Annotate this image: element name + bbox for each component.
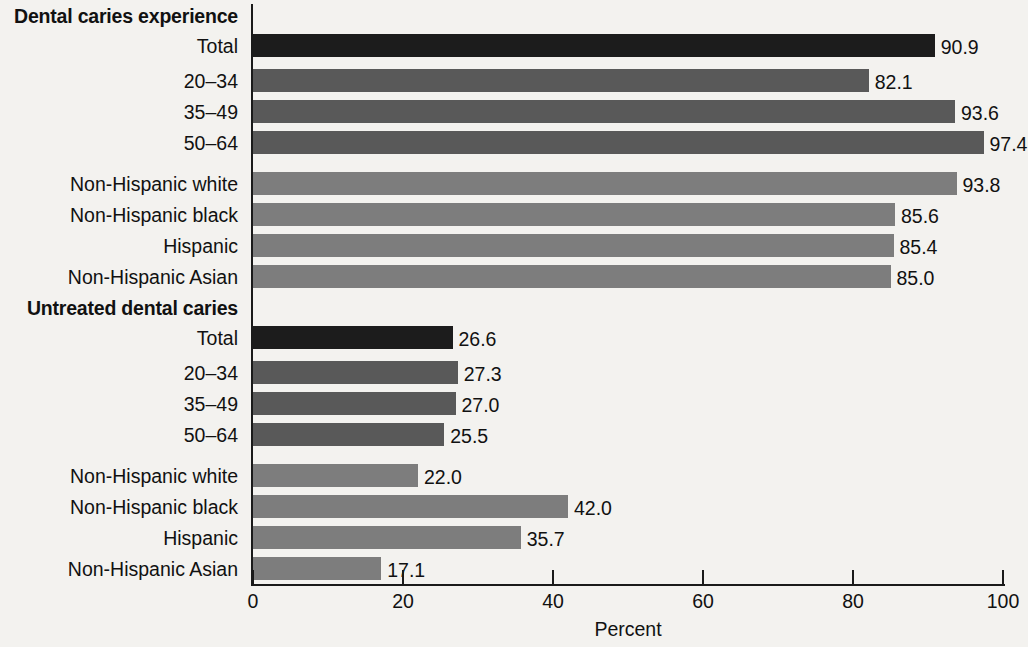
bar-value-label: 25.5: [450, 427, 488, 447]
x-axis-tick: [1002, 570, 1004, 584]
x-axis-tick: [852, 570, 854, 584]
category-label: 35–49: [184, 103, 238, 123]
bar-value-label: 85.4: [900, 238, 938, 258]
bar: [253, 234, 894, 257]
x-axis-title: Percent: [253, 620, 1003, 640]
bar: [253, 423, 444, 446]
x-axis-tick: [702, 570, 704, 584]
category-label: Non-Hispanic white: [70, 175, 238, 195]
category-label: Non-Hispanic black: [70, 206, 238, 226]
category-label: Non-Hispanic Asian: [68, 560, 238, 580]
bar-value-label: 26.6: [459, 330, 497, 350]
bar-value-label: 42.0: [574, 499, 612, 519]
category-label: Non-Hispanic black: [70, 498, 238, 518]
group-header-label: Dental caries experience: [14, 7, 238, 27]
bar: [253, 34, 935, 57]
bar-value-label: 17.1: [387, 561, 425, 581]
bar-value-label: 35.7: [527, 530, 565, 550]
bar-value-label: 82.1: [875, 73, 913, 93]
bar-value-label: 27.0: [462, 396, 500, 416]
category-label: 35–49: [184, 395, 238, 415]
x-axis-tick: [552, 570, 554, 584]
bar: [253, 69, 869, 92]
bar: [253, 557, 381, 580]
bar-value-label: 97.4: [990, 135, 1028, 155]
bar: [253, 392, 456, 415]
x-axis-tick: [252, 570, 254, 584]
category-label: 50–64: [184, 134, 238, 154]
bar-value-label: 27.3: [464, 365, 502, 385]
bar: [253, 464, 418, 487]
category-label: Total: [197, 37, 238, 57]
bar: [253, 495, 568, 518]
bar-value-label: 93.8: [963, 176, 1001, 196]
bar: [253, 265, 891, 288]
category-label: Hispanic: [163, 237, 238, 257]
category-label: Total: [197, 329, 238, 349]
bar: [253, 526, 521, 549]
category-label: Hispanic: [163, 529, 238, 549]
x-axis-tick-label: 60: [692, 592, 714, 612]
bar: [253, 203, 895, 226]
bar-value-label: 22.0: [424, 468, 462, 488]
category-label: Non-Hispanic white: [70, 467, 238, 487]
category-label: Non-Hispanic Asian: [68, 268, 238, 288]
bar-value-label: 90.9: [941, 38, 979, 58]
category-label: 50–64: [184, 426, 238, 446]
plot-area: 90.982.193.697.493.885.685.485.026.627.3…: [253, 0, 1003, 584]
bar-value-label: 85.6: [901, 207, 939, 227]
bar: [253, 172, 957, 195]
x-axis-tick-label: 20: [392, 592, 414, 612]
x-axis-tick-label: 40: [542, 592, 564, 612]
x-axis-tick: [402, 570, 404, 584]
x-axis-line: [251, 584, 1005, 586]
category-label: 20–34: [184, 72, 238, 92]
bar: [253, 100, 955, 123]
x-axis-tick-label: 80: [842, 592, 864, 612]
x-axis-tick-label: 100: [987, 592, 1020, 612]
category-label-column: Dental caries experienceTotal20–3435–495…: [0, 0, 246, 584]
bar: [253, 361, 458, 384]
group-header-label: Untreated dental caries: [27, 299, 238, 319]
bar-value-label: 93.6: [961, 104, 999, 124]
bar-value-label: 85.0: [897, 269, 935, 289]
bar: [253, 326, 453, 349]
bar: [253, 131, 984, 154]
category-label: 20–34: [184, 364, 238, 384]
x-axis-tick-label: 0: [248, 592, 259, 612]
chart-page: Dental caries experienceTotal20–3435–495…: [0, 0, 1028, 647]
